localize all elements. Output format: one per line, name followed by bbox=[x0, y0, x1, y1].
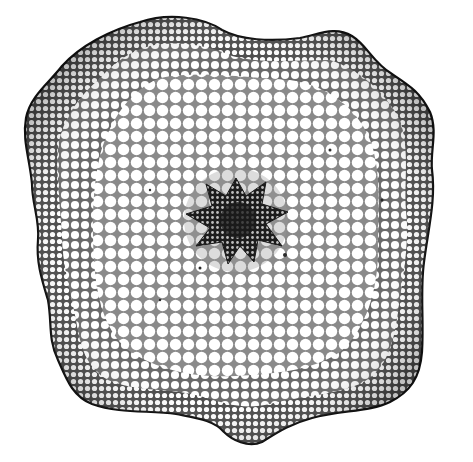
root-cross-section-illustration bbox=[0, 0, 473, 462]
stele-core bbox=[220, 202, 256, 238]
illustration-canvas bbox=[0, 0, 473, 462]
